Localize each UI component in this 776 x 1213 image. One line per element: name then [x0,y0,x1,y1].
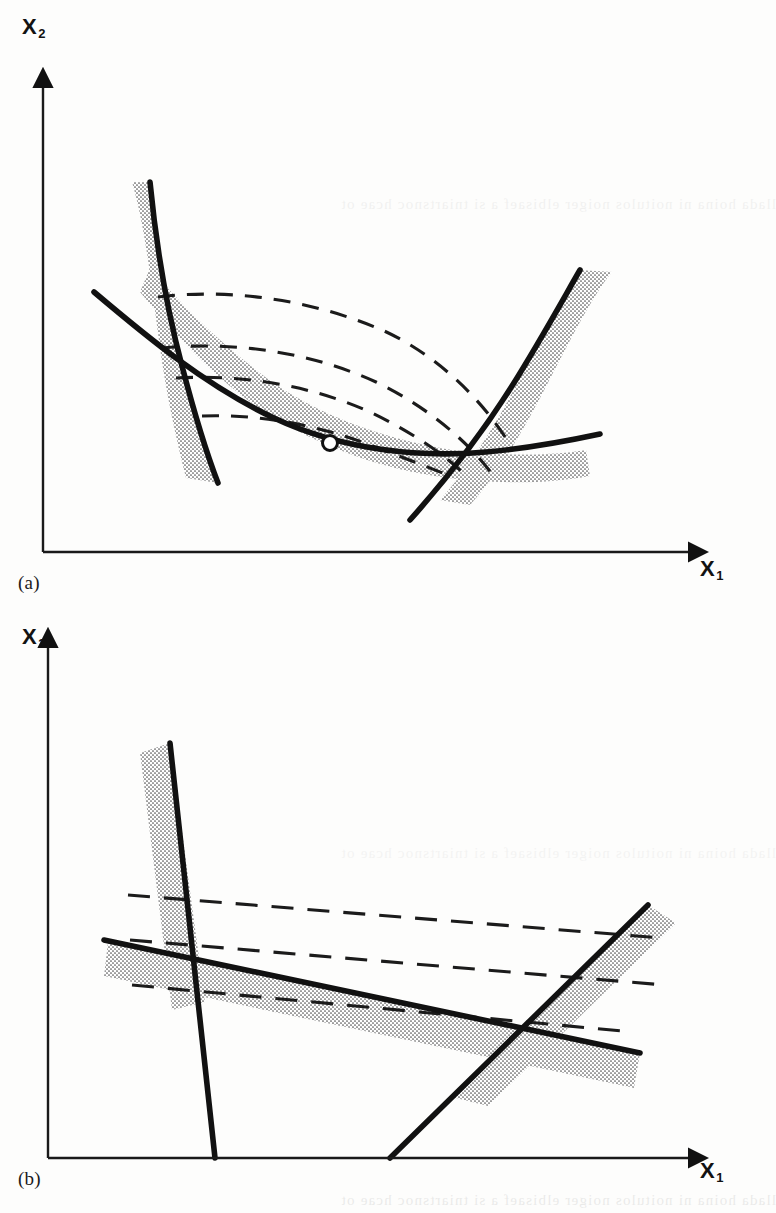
constraint-right-rising [410,270,580,520]
axes-a [43,86,690,552]
panel-b-x-axis-label: X1 [700,1158,723,1184]
panel-b-x-axis-label-text: X [700,1158,715,1183]
panel-b [0,610,776,1213]
panel-a-x-axis-label: X1 [700,556,723,582]
panel-b-y-axis-label: X2 [22,624,45,650]
panel-b-y-axis-subscript: 2 [38,636,46,651]
panel-a-x-axis-subscript: 1 [716,568,724,583]
panel-a-caption: (a) [18,572,40,594]
panel-b-x-axis-subscript: 1 [716,1170,724,1185]
scan-bleed-bottom: llada hoina ni noitulos noiger elbisaef … [0,1192,776,1210]
panel-a-plot [0,0,776,610]
optimum-point-marker [323,436,338,451]
scan-bleed-mid: llada hoina ni noitulos noiger elbisaef … [0,196,776,214]
scan-bleed-mid-lower: llada hoina ni noitulos noiger elbisaef … [0,845,776,863]
figure-root: X2 X1 (a) X2 X1 (b) llada hoina ni noitu… [0,0,776,1213]
panel-b-y-axis-label-text: X [22,624,37,649]
panel-a [0,0,776,610]
panel-a-x-axis-label-text: X [700,556,715,581]
panel-a-y-axis-label: X2 [22,14,45,40]
panel-b-caption: (b) [18,1168,41,1190]
panel-a-y-axis-subscript: 2 [38,26,46,41]
panel-a-y-axis-label-text: X [22,14,37,39]
contour-line-1 [128,895,662,938]
axes-b [48,646,690,1158]
panel-b-plot [0,610,776,1213]
